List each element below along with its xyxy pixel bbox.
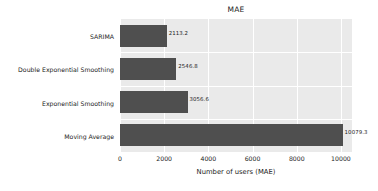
bar-exponential-smoothing[interactable] xyxy=(120,91,188,113)
y-axis-tick-double-exponential-smoothing: Double Exponential Smoothing xyxy=(0,66,114,73)
x-axis-tick-4000: 4000 xyxy=(201,155,217,162)
bar-moving-average[interactable] xyxy=(120,124,343,146)
bar-row: 2113.2 xyxy=(120,19,352,52)
chart-title: MAE xyxy=(120,5,352,14)
x-axis-tick-2000: 2000 xyxy=(156,155,172,162)
x-axis-label: Number of users (MAE) xyxy=(120,168,352,176)
bar-sarima[interactable] xyxy=(120,25,167,47)
bar-row: 2546.8 xyxy=(120,52,352,85)
bar-row: 10079.3 xyxy=(120,119,352,152)
x-axis-tick-8000: 8000 xyxy=(289,155,305,162)
plot-area: 2113.2 2546.8 3056.6 10079.3 xyxy=(120,19,352,152)
y-axis-tick-moving-average: Moving Average xyxy=(0,133,114,140)
chart-figure: MAE 2113.2 2546.8 3056.6 10079.3 SARIMA … xyxy=(0,0,378,191)
x-axis-tick-10000: 10000 xyxy=(331,155,351,162)
y-axis-tick-sarima: SARIMA xyxy=(0,33,114,40)
x-axis-tick-0: 0 xyxy=(118,155,122,162)
bar-row: 3056.6 xyxy=(120,86,352,119)
bar-value-label: 2113.2 xyxy=(169,30,188,36)
bar-double-exponential-smoothing[interactable] xyxy=(120,58,176,80)
y-axis-tick-exponential-smoothing: Exponential Smoothing xyxy=(0,100,114,107)
x-axis-tick-6000: 6000 xyxy=(245,155,261,162)
bar-value-label: 2546.8 xyxy=(178,63,197,69)
bar-value-label: 3056.6 xyxy=(190,96,209,102)
bar-value-label: 10079.3 xyxy=(345,129,368,135)
